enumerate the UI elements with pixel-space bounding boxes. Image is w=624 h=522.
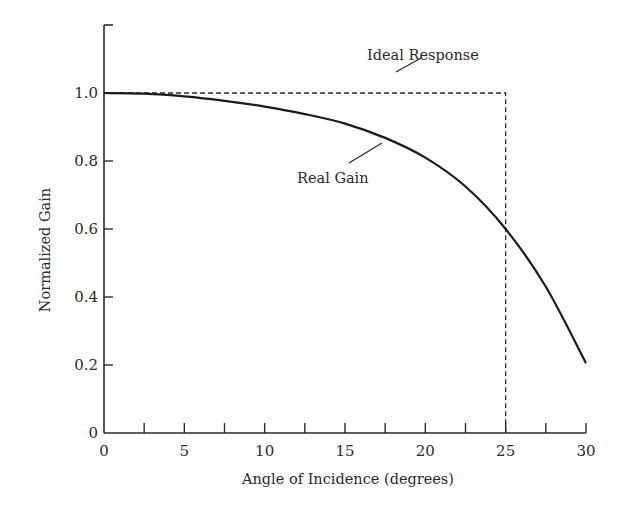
x-tick-label: 15: [335, 442, 354, 460]
x-tick-label: 20: [416, 442, 435, 460]
y-axis-title: Normalized Gain: [37, 188, 53, 312]
real-gain-leader: [349, 143, 382, 163]
y-tick-label: 0.6: [74, 220, 98, 238]
real-gain-label: Real Gain: [297, 170, 369, 186]
y-tick-label: 1.0: [74, 84, 98, 102]
x-tick-label: 0: [99, 442, 109, 460]
x-tick-label: 30: [576, 442, 595, 460]
real-gain-curve: [104, 93, 586, 363]
x-axis-title: Angle of Incidence (degrees): [241, 471, 454, 487]
ideal-response-line: [104, 93, 506, 433]
x-tick-label: 25: [496, 442, 515, 460]
x-tick-label: 5: [180, 442, 190, 460]
y-ticks: 00.20.40.60.81.0: [74, 84, 113, 442]
y-tick-label: 0.4: [74, 288, 98, 306]
y-tick-label: 0: [88, 424, 98, 442]
y-tick-label: 0.2: [74, 356, 98, 374]
ideal-response-label: Ideal Response: [367, 47, 479, 63]
y-tick-label: 0.8: [74, 152, 98, 170]
x-tick-label: 10: [255, 442, 274, 460]
chart: 051015202530 00.20.40.60.81.0 Ideal Resp…: [0, 0, 624, 522]
x-ticks: 051015202530: [99, 423, 595, 460]
axes: [104, 25, 586, 433]
